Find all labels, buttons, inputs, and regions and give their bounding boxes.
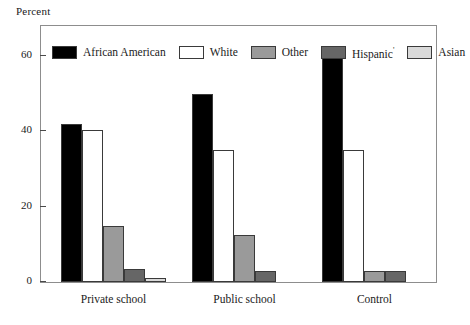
y-axis-title: Percent [16, 5, 50, 17]
legend-swatch [321, 46, 346, 59]
bar [322, 56, 343, 282]
bar [213, 150, 234, 282]
legend-swatch [407, 46, 432, 59]
bar-group [61, 26, 166, 282]
legend-label-footnote-marker: ' [393, 46, 394, 55]
legend-item: White [179, 46, 238, 59]
legend-swatch [251, 46, 276, 59]
bar-group [322, 26, 406, 282]
legend-label: African American [83, 46, 166, 59]
y-axis-tick-label: 20 [21, 199, 32, 211]
legend-swatch [52, 46, 77, 59]
y-axis-tick-mark [40, 206, 46, 207]
y-axis-tick-label: 40 [21, 123, 32, 135]
bar [234, 235, 255, 282]
bar [385, 271, 406, 282]
legend-label: White [210, 46, 238, 59]
y-axis-tick-label: 0 [27, 274, 33, 286]
bar [124, 269, 145, 282]
bar [61, 124, 82, 282]
x-axis-tick-label: Control [357, 293, 392, 305]
bar-group [192, 26, 276, 282]
legend-label: Other [282, 46, 308, 59]
plot-area [40, 25, 437, 283]
legend-item: Hispanic' [321, 44, 394, 61]
y-axis-tick-label: 60 [21, 48, 32, 60]
bar [192, 94, 213, 282]
bar [103, 226, 124, 282]
y-axis-tick-mark [40, 281, 46, 282]
legend-swatch [179, 46, 204, 59]
x-axis-tick-label: Private school [81, 293, 146, 305]
bar [255, 271, 276, 282]
y-axis-tick-mark [40, 55, 46, 56]
bar [145, 278, 166, 282]
bars-layer [41, 26, 436, 282]
x-axis-tick-label: Public school [213, 293, 275, 305]
bar [82, 130, 103, 282]
legend-item: Asian [407, 46, 465, 59]
legend-label: Asian [438, 46, 465, 59]
y-axis-tick-mark [40, 130, 46, 131]
chart-legend: African AmericanWhiteOtherHispanic'Asian [52, 44, 470, 61]
bar [343, 150, 364, 282]
legend-item: African American [52, 46, 166, 59]
legend-item: Other [251, 46, 308, 59]
legend-label: Hispanic' [352, 44, 394, 61]
bar [364, 271, 385, 282]
